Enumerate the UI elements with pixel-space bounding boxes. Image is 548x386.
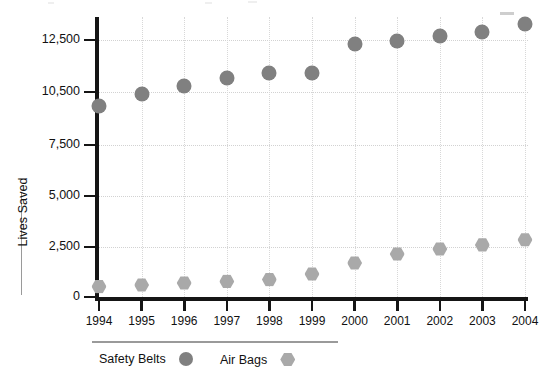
- x-axis-tick-label: 2004: [500, 314, 548, 328]
- data-point-safety-belts: [475, 25, 490, 40]
- legend: Safety Belts Air Bags: [92, 350, 392, 374]
- circle-marker-icon: [179, 352, 193, 366]
- crop-artifact: [500, 12, 514, 15]
- gridline-horizontal: [99, 247, 528, 248]
- data-point-air-bags: [475, 237, 490, 252]
- crop-artifact: [205, 2, 212, 4]
- gridline-horizontal: [99, 92, 528, 93]
- gridline-vertical: [312, 17, 313, 297]
- data-point-safety-belts: [262, 65, 277, 80]
- data-point-safety-belts: [305, 65, 320, 80]
- data-point-safety-belts: [92, 99, 107, 114]
- x-axis-tick: [524, 300, 527, 311]
- data-point-safety-belts: [177, 78, 192, 93]
- gridline-vertical: [525, 17, 526, 297]
- data-point-air-bags: [92, 279, 107, 294]
- crop-artifact: [248, 1, 257, 3]
- data-point-air-bags: [219, 274, 234, 289]
- x-axis-tick: [226, 300, 229, 311]
- y-axis-tick-label: 7,500: [14, 137, 80, 151]
- crop-artifact: [48, 2, 54, 4]
- data-point-air-bags: [177, 276, 192, 291]
- hexagon-marker-icon: [280, 352, 295, 367]
- legend-label-air-bags: Air Bags: [220, 353, 267, 367]
- x-axis-tick: [353, 300, 356, 311]
- y-axis-tick-label: 12,500: [14, 32, 80, 46]
- data-point-safety-belts: [432, 29, 447, 44]
- x-axis-tick: [140, 300, 143, 311]
- gridline-horizontal: [99, 40, 528, 41]
- data-point-safety-belts: [390, 34, 405, 49]
- legend-item-air-bags: Air Bags: [220, 352, 295, 367]
- x-axis-tick: [183, 300, 186, 311]
- y-axis-tick: [84, 91, 96, 94]
- legend-item-safety-belts: Safety Belts: [99, 352, 193, 366]
- x-axis-tick: [311, 300, 314, 311]
- x-axis-tick: [98, 300, 101, 311]
- data-point-air-bags: [305, 267, 320, 282]
- y-axis-tick: [84, 195, 96, 198]
- data-point-safety-belts: [518, 17, 533, 32]
- x-axis-tick: [439, 300, 442, 311]
- x-axis-tick: [481, 300, 484, 311]
- y-axis-tick-label: 5,000: [14, 188, 80, 202]
- data-point-air-bags: [518, 232, 533, 247]
- y-axis-tick: [84, 39, 96, 42]
- data-point-air-bags: [134, 278, 149, 293]
- gridline-horizontal: [99, 196, 528, 197]
- lives-saved-scatter-chart: Lives Saved 02,5005,0007,50010,50012,500…: [0, 0, 548, 386]
- data-point-air-bags: [432, 242, 447, 257]
- legend-label-safety-belts: Safety Belts: [99, 352, 166, 366]
- gridline-horizontal: [99, 145, 528, 146]
- y-axis-tick-label: 0: [14, 289, 80, 303]
- legend-rule: [92, 341, 338, 343]
- data-point-air-bags: [390, 247, 405, 262]
- y-axis-tick: [84, 246, 96, 249]
- y-axis-tick-label: 2,500: [14, 239, 80, 253]
- gridline-vertical: [184, 17, 185, 297]
- data-point-air-bags: [347, 256, 362, 271]
- x-axis-tick: [268, 300, 271, 311]
- data-point-safety-belts: [134, 86, 149, 101]
- gridline-vertical: [227, 17, 228, 297]
- gridline-vertical: [482, 17, 483, 297]
- y-axis-line: [95, 17, 99, 301]
- y-axis-tick: [84, 296, 96, 299]
- data-point-air-bags: [262, 272, 277, 287]
- gridline-vertical: [142, 17, 143, 297]
- x-axis-tick: [396, 300, 399, 311]
- data-point-safety-belts: [219, 70, 234, 85]
- data-point-safety-belts: [347, 36, 362, 51]
- y-axis-tick: [84, 144, 96, 147]
- y-axis-tick-label: 10,500: [14, 84, 80, 98]
- gridline-vertical: [269, 17, 270, 297]
- gridline-vertical: [355, 17, 356, 297]
